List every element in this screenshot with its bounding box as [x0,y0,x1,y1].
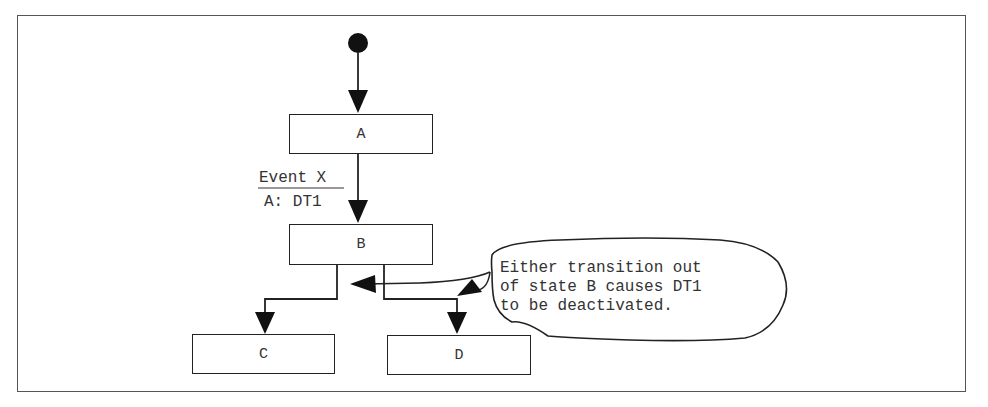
note-line-2: of state B causes DT1 [500,278,702,296]
arrowhead-icon [255,312,275,334]
initial-state-node [348,33,368,53]
transition-event-label: Event X [259,170,326,186]
arrowhead-icon [348,200,368,223]
arrowhead-icon [348,90,368,113]
state-b: B [289,224,433,265]
state-c: C [192,334,335,374]
transition-b-to-d [384,264,457,318]
arrowhead-icon [350,275,376,293]
note-line-3: to be deactivated. [500,297,673,315]
state-c-label: C [259,346,268,363]
arrowhead-icon [457,279,482,296]
state-a-label: A [356,126,365,143]
note-line-1: Either transition out [500,259,702,277]
state-d-label: D [454,347,463,364]
state-d: D [387,335,531,375]
note-text: Either transition out of state B causes … [500,259,702,316]
transition-b-to-c [265,264,337,318]
arrowhead-icon [447,312,467,334]
state-b-label: B [356,236,365,253]
state-a: A [289,114,433,154]
transition-action-label: A: DT1 [264,194,322,210]
